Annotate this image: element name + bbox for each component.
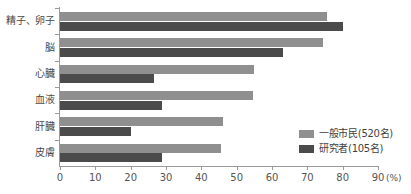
bar-group — [60, 61, 378, 87]
category-axis-labels: 精子、卵子脳心臓血液肝臓皮膚 — [0, 8, 55, 166]
legend-swatch — [299, 145, 314, 153]
x-axis-tick — [166, 166, 167, 170]
bar-group — [60, 87, 378, 113]
x-axis-tick — [237, 166, 238, 170]
legend-item: 研究者(105名) — [299, 142, 393, 155]
y-axis-tick — [55, 61, 60, 62]
bar-general-public — [60, 117, 223, 126]
x-axis-tick-label: 80 — [336, 172, 349, 184]
y-axis-tick — [55, 8, 60, 9]
x-axis-tick — [131, 166, 132, 170]
x-axis-tick-label: 70 — [301, 172, 314, 184]
y-axis-tick — [55, 34, 60, 35]
x-axis-tick — [343, 166, 344, 170]
x-axis-tick — [95, 166, 96, 170]
legend-label: 研究者(105名) — [319, 143, 383, 154]
bar-group — [60, 34, 378, 60]
x-axis-tick-label: 30 — [160, 172, 173, 184]
legend-item: 一般市民(520名) — [299, 127, 393, 140]
x-axis-tick-label: 10 — [89, 172, 102, 184]
x-axis-tick — [307, 166, 308, 170]
x-axis-unit-label: (%) — [386, 172, 402, 184]
bar-researchers — [60, 22, 343, 31]
x-axis-tick-label: 90 — [372, 172, 385, 184]
bar-researchers — [60, 153, 162, 162]
y-axis-tick — [55, 87, 60, 88]
x-axis-tick-label: 40 — [195, 172, 208, 184]
bar-researchers — [60, 127, 131, 136]
x-axis-tick — [272, 166, 273, 170]
y-axis-tick — [55, 113, 60, 114]
x-axis-line — [59, 166, 379, 167]
bar-researchers — [60, 101, 162, 110]
horizontal-bar-chart: 精子、卵子脳心臓血液肝臓皮膚 一般市民(520名)研究者(105名) 01020… — [0, 0, 411, 194]
bar-general-public — [60, 12, 327, 21]
bar-general-public — [60, 91, 253, 100]
x-axis-tick-label: 60 — [266, 172, 279, 184]
category-label: 血液 — [0, 94, 55, 105]
bar-general-public — [60, 144, 221, 153]
x-axis-tick — [378, 166, 379, 170]
bar-researchers — [60, 74, 154, 83]
category-label: 心臓 — [0, 68, 55, 79]
category-label: 皮膚 — [0, 147, 55, 158]
bar-group — [60, 8, 378, 34]
x-axis-tick — [201, 166, 202, 170]
bar-researchers — [60, 48, 283, 57]
x-axis-tick — [60, 166, 61, 170]
y-axis-tick — [55, 140, 60, 141]
legend-swatch — [299, 130, 314, 138]
category-label: 精子、卵子 — [0, 15, 55, 26]
x-axis-tick-label: 0 — [57, 172, 63, 184]
x-axis-tick-label: 50 — [230, 172, 243, 184]
category-label: 肝臓 — [0, 121, 55, 132]
legend-label: 一般市民(520名) — [319, 128, 393, 139]
x-axis-tick-label: 20 — [124, 172, 137, 184]
category-label: 脳 — [0, 42, 55, 53]
chart-legend: 一般市民(520名)研究者(105名) — [299, 127, 393, 157]
bar-general-public — [60, 38, 323, 47]
bar-general-public — [60, 65, 254, 74]
